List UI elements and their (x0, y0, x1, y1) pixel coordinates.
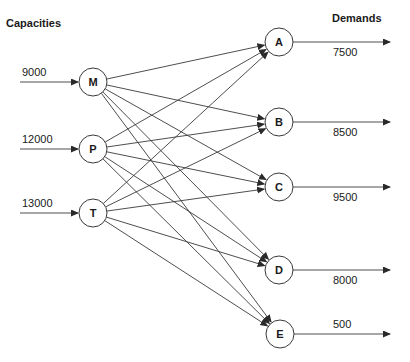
edge-T-E (105, 221, 268, 326)
demand-outputs-layer: 7500850095008000500 (293, 42, 390, 334)
source-node-label: P (89, 143, 96, 155)
demand-label-A: 7500 (333, 46, 357, 58)
edge-P-D (105, 157, 267, 262)
destination-node-label: D (275, 264, 283, 276)
network-diagram: Capacities Demands 90001200013000 750085… (0, 0, 410, 362)
edge-T-B (106, 129, 266, 207)
edge-M-D (103, 92, 269, 259)
capacities-header: Capacities (6, 17, 61, 29)
nodes-layer: MPTABCDE (79, 28, 294, 348)
edge-M-B (107, 85, 265, 119)
edges-layer (101, 45, 271, 326)
demand-label-C: 9500 (333, 191, 357, 203)
capacity-inputs-layer: 90001200013000 (20, 66, 78, 213)
edge-T-C (107, 189, 264, 211)
edge-M-C (105, 89, 266, 180)
destination-node-label: E (276, 328, 283, 340)
destination-node-label: C (275, 181, 283, 193)
demand-label-D: 8000 (333, 274, 357, 286)
edge-T-D (106, 217, 264, 266)
demand-label-E: 500 (333, 318, 351, 330)
source-node-label: T (90, 207, 97, 219)
capacity-label-T: 13000 (22, 197, 53, 209)
edge-M-A (107, 45, 265, 79)
capacity-label-P: 12000 (22, 133, 53, 145)
demands-header: Demands (332, 12, 382, 24)
destination-node-label: A (275, 36, 283, 48)
destination-node-label: B (275, 116, 283, 128)
demand-label-B: 8500 (333, 126, 357, 138)
capacity-label-M: 9000 (22, 66, 46, 78)
source-node-label: M (88, 76, 97, 88)
